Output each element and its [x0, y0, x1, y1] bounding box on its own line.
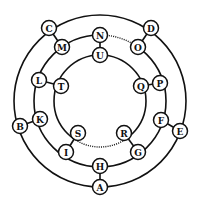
node-label: R [120, 129, 128, 139]
node-h: H [93, 159, 108, 174]
node-label: T [58, 82, 65, 92]
node-m: M [55, 40, 70, 55]
node-f: F [154, 113, 169, 128]
node-a: A [93, 180, 108, 195]
node-label: K [36, 115, 45, 125]
node-label: G [134, 148, 142, 158]
node-label: N [96, 31, 104, 41]
node-label: D [147, 24, 155, 34]
node-label: C [45, 24, 52, 34]
node-g: G [131, 145, 146, 160]
node-label: M [57, 43, 67, 53]
node-o: O [131, 40, 146, 55]
node-d: D [144, 21, 159, 36]
node-label: O [134, 43, 142, 53]
ring-diagram: CDEABMNOPFGHIKLUQRST [0, 0, 200, 208]
node-u: U [93, 48, 108, 63]
node-label: A [96, 183, 105, 193]
node-q: Q [134, 79, 149, 94]
node-t: T [54, 79, 69, 94]
node-label: P [157, 79, 164, 89]
node-l: L [32, 73, 47, 88]
node-c: C [42, 21, 57, 36]
node-e: E [173, 124, 188, 139]
node-label: S [75, 129, 82, 139]
node-label: L [36, 76, 43, 86]
node-i: I [59, 145, 74, 160]
node-label: Q [137, 82, 145, 92]
node-r: R [117, 126, 132, 141]
node-label: H [96, 162, 105, 172]
node-label: U [96, 51, 104, 61]
node-label: E [177, 127, 184, 137]
node-label: B [16, 122, 24, 132]
node-k: K [33, 112, 48, 127]
node-b: B [13, 119, 28, 134]
node-label: F [158, 116, 165, 126]
node-n: N [93, 28, 108, 43]
node-s: S [71, 126, 86, 141]
node-label: I [64, 148, 68, 158]
node-p: P [153, 76, 168, 91]
